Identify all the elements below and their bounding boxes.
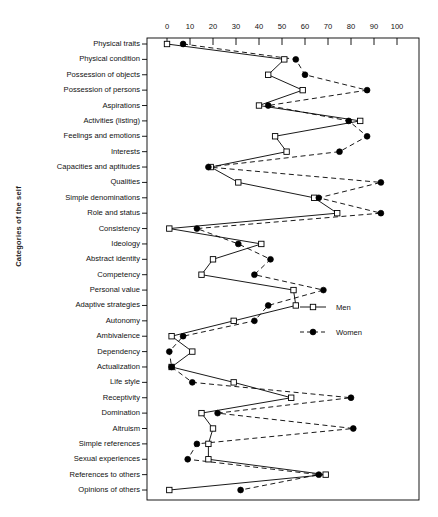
x-axis-tick-label: 90 <box>370 22 378 31</box>
data-point-marker <box>302 72 308 78</box>
data-point-marker <box>189 379 195 385</box>
data-point-marker <box>364 133 370 139</box>
x-axis-tick-label: 60 <box>301 22 309 31</box>
x-axis-tick-label: 30 <box>232 22 240 31</box>
data-point-marker <box>265 303 271 309</box>
data-point-marker <box>169 364 175 370</box>
data-point-marker <box>231 380 236 385</box>
x-axis-tick-label: 80 <box>347 22 355 31</box>
legend-marker <box>310 304 315 309</box>
data-point-marker <box>335 210 340 215</box>
data-point-marker <box>164 41 169 46</box>
x-axis-tick-label: 40 <box>255 22 263 31</box>
data-point-marker <box>206 457 211 462</box>
data-point-marker <box>378 180 384 186</box>
data-point-marker <box>194 441 200 447</box>
x-axis-tick-label: 20 <box>209 22 217 31</box>
x-axis-tick-label: 70 <box>324 22 332 31</box>
data-point-marker <box>358 118 363 123</box>
data-point-marker <box>268 256 274 262</box>
x-axis-tick-label: 10 <box>186 22 194 31</box>
data-point-marker <box>256 103 261 108</box>
data-point-marker <box>259 241 264 246</box>
x-axis-tick-label: 0 <box>165 22 169 31</box>
data-point-marker <box>167 487 172 492</box>
data-point-marker <box>167 226 172 231</box>
x-axis-tick-label: 50 <box>278 22 286 31</box>
data-point-marker <box>194 226 200 232</box>
data-point-marker <box>346 118 352 124</box>
data-point-marker <box>316 472 322 478</box>
chart-container: Categories of the self Physical traitsPh… <box>0 0 438 517</box>
legend-marker <box>310 329 316 335</box>
data-point-marker <box>210 426 215 431</box>
data-point-marker <box>323 472 328 477</box>
series-lines <box>167 44 381 490</box>
data-point-marker <box>199 410 204 415</box>
data-point-marker <box>289 395 294 400</box>
data-point-marker <box>199 272 204 277</box>
data-point-marker <box>291 287 296 292</box>
x-axis-tick-label: 100 <box>391 22 404 31</box>
data-point-marker <box>206 164 212 170</box>
data-point-marker <box>166 349 172 355</box>
data-point-marker <box>180 41 186 47</box>
data-point-marker <box>293 303 298 308</box>
data-point-marker <box>321 287 327 293</box>
plot-area: 0102030405060708090100 MenWomen <box>0 0 438 517</box>
data-point-marker <box>210 257 215 262</box>
chart-svg: 0102030405060708090100 MenWomen <box>0 0 438 517</box>
data-point-marker <box>364 87 370 93</box>
data-point-marker <box>252 318 258 324</box>
data-point-marker <box>282 57 287 62</box>
data-point-marker <box>300 87 305 92</box>
data-point-marker <box>206 441 211 446</box>
data-point-marker <box>378 210 384 216</box>
data-point-marker <box>272 134 277 139</box>
data-point-marker <box>238 487 244 493</box>
data-point-marker <box>190 349 195 354</box>
series-line-women <box>169 44 381 490</box>
chart-legend[interactable]: MenWomen <box>300 303 362 337</box>
data-point-marker <box>185 456 191 462</box>
legend-label: Men <box>336 303 351 312</box>
data-point-marker <box>337 149 343 155</box>
series-markers <box>164 41 383 493</box>
data-point-marker <box>180 333 186 339</box>
legend-label: Women <box>336 328 362 337</box>
data-point-marker <box>350 426 356 432</box>
data-point-marker <box>293 56 299 62</box>
data-point-marker <box>266 72 271 77</box>
plot-frame <box>147 38 419 500</box>
data-point-marker <box>252 272 258 278</box>
data-point-marker <box>231 318 236 323</box>
data-point-marker <box>284 149 289 154</box>
series-line-men <box>167 44 360 490</box>
data-point-marker <box>169 334 174 339</box>
data-point-marker <box>348 395 354 401</box>
data-point-marker <box>236 180 241 185</box>
data-point-marker <box>265 103 271 109</box>
data-point-marker <box>235 241 241 247</box>
data-point-marker <box>215 410 221 416</box>
x-axis-tick-labels: 0102030405060708090100 <box>165 22 403 31</box>
data-point-marker <box>316 195 322 201</box>
